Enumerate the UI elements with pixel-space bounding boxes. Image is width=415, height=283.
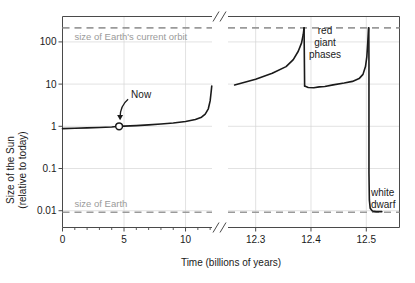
x-axis-title: Time (billions of years) (181, 257, 281, 268)
y-tick-label-4: 0.01 (37, 205, 57, 216)
now-label: Now (131, 89, 152, 100)
red-giant-label-line-2: phases (309, 49, 341, 60)
y-axis-title-line1: Size of the Sun (5, 136, 16, 204)
y-tick-label-1: 10 (45, 79, 57, 90)
y-tick-label-3: 0.1 (43, 163, 57, 174)
x-tick-label-left-0: 0 (60, 234, 66, 245)
x-tick-label-right-0: 12.3 (246, 234, 266, 245)
now-circle-marker (116, 123, 123, 130)
red-giant-label-line-1: giant (314, 37, 336, 48)
x-tick-label-right-1: 12.4 (301, 234, 321, 245)
reference-label-earth-size: size of Earth (75, 198, 128, 209)
x-tick-label-left-1: 5 (121, 234, 127, 245)
x-tick-label-left-2: 10 (180, 234, 192, 245)
white-dwarf-label-line-0: white (370, 187, 395, 198)
x-tick-label-right-2: 12.5 (357, 234, 377, 245)
reference-label-earth-orbit: size of Earth's current orbit (75, 31, 188, 42)
white-dwarf-label-line-1: dwarf (371, 199, 396, 210)
y-tick-label-0: 100 (40, 36, 57, 47)
red-giant-label-line-0: red (318, 25, 332, 36)
y-axis-title-line2: (relative to today) (17, 131, 28, 208)
series-sun-size-helium-flash-drop (304, 28, 305, 86)
chart-figure: 1001010.10.01051012.312.412.5size of Ear… (0, 0, 415, 283)
y-tick-label-2: 1 (51, 121, 57, 132)
